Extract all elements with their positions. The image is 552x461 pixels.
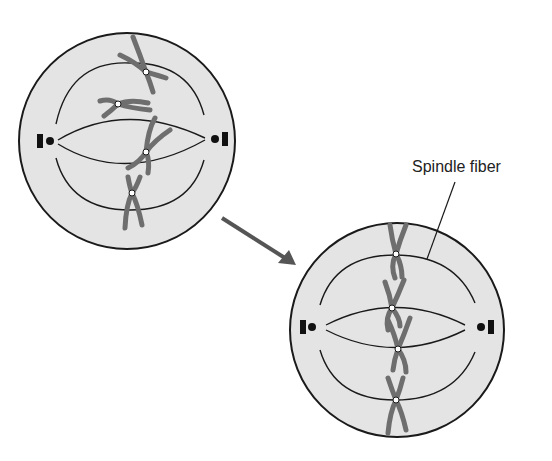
cell-before	[19, 33, 235, 249]
spindle-fiber-label: Spindle fiber	[412, 158, 501, 176]
cell-after	[290, 182, 504, 437]
mitosis-diagram	[0, 0, 552, 461]
transition-arrow	[222, 218, 296, 265]
